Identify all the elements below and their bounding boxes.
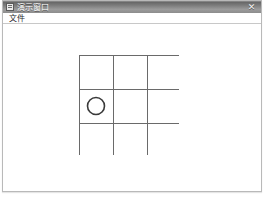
pieces-layer — [88, 98, 105, 115]
application-window: 演示窗口 ✕ 文件 — [2, 0, 262, 192]
tic-tac-toe-board[interactable] — [75, 51, 179, 155]
menubar: 文件 — [3, 13, 261, 24]
window-title: 演示窗口 — [17, 3, 49, 12]
board-outer-frame — [80, 56, 180, 156]
window-titlebar[interactable]: 演示窗口 ✕ — [3, 1, 261, 13]
piece-o-1-0 — [88, 98, 105, 115]
close-button[interactable]: ✕ — [246, 2, 257, 12]
close-icon: ✕ — [246, 2, 257, 12]
board-svg — [75, 51, 179, 155]
menu-item-file[interactable]: 文件 — [7, 14, 27, 23]
client-area — [3, 24, 261, 191]
window-app-icon — [6, 3, 14, 11]
screen-root: 演示窗口 ✕ 文件 — [0, 0, 264, 202]
